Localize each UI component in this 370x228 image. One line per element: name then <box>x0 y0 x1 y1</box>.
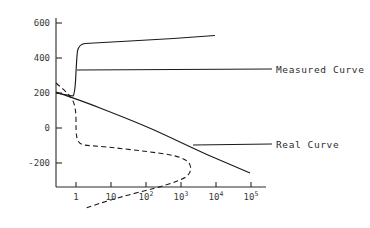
series-dashed-locus <box>56 83 191 208</box>
chart-figure: 600 400 200 0 -200 1 10 102 103 104 105 … <box>0 0 370 228</box>
leader-line-measured-curve <box>77 69 272 70</box>
x-tick-exponent-1e4: 4 <box>219 190 223 198</box>
x-tick-marks <box>76 182 251 187</box>
x-tick-mantissa-1: 1 <box>73 192 78 202</box>
x-tick-mantissa-1e3: 10 <box>174 192 185 202</box>
x-tick-label-1e3: 103 <box>166 192 196 202</box>
x-tick-label-1: 1 <box>62 192 90 202</box>
x-tick-mantissa-1e5: 10 <box>244 192 255 202</box>
series-real-curve <box>56 92 250 173</box>
x-tick-mantissa-1e2: 10 <box>139 192 150 202</box>
y-tick-label-minus-200: -200 <box>10 158 50 168</box>
leader-line-real-curve <box>193 144 272 145</box>
x-tick-label-1e4: 104 <box>201 192 231 202</box>
y-tick-label-400: 400 <box>18 53 50 63</box>
x-tick-exponent-1e2: 2 <box>149 190 153 198</box>
y-tick-label-0: 0 <box>18 123 50 133</box>
y-tick-label-600: 600 <box>18 18 50 28</box>
x-tick-mantissa-1e4: 10 <box>209 192 220 202</box>
x-tick-mantissa-10: 10 <box>106 192 117 202</box>
x-tick-label-10: 10 <box>97 192 125 202</box>
annotation-real-curve: Real Curve <box>276 139 339 150</box>
x-tick-exponent-1e5: 5 <box>254 190 258 198</box>
x-tick-label-1e2: 102 <box>131 192 161 202</box>
x-tick-exponent-1e3: 3 <box>184 190 188 198</box>
x-tick-label-1e5: 105 <box>236 192 266 202</box>
annotation-measured-curve: Measured Curve <box>276 64 364 75</box>
y-tick-label-200: 200 <box>18 88 50 98</box>
series-measured-curve <box>56 36 215 97</box>
